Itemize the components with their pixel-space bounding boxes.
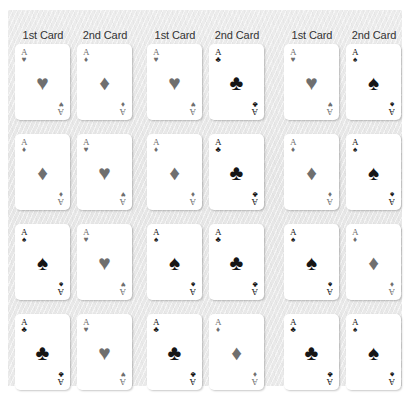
card-corner-bottom-right: A♥ bbox=[324, 100, 336, 116]
card-rank: A bbox=[117, 288, 129, 296]
card-corner-bottom-right: A♣ bbox=[249, 280, 261, 296]
playing-card: A♣♣A♣ bbox=[284, 314, 339, 390]
diamonds-icon: ♦ bbox=[324, 190, 336, 198]
diamonds-icon: ♦ bbox=[187, 190, 199, 198]
clubs-icon: ♣ bbox=[187, 370, 199, 378]
playing-card: A♣♣A♣ bbox=[147, 314, 202, 390]
card-rank: A bbox=[386, 198, 398, 206]
column-header-second-card: 2nd Card bbox=[76, 28, 134, 42]
clubs-icon: ♣ bbox=[249, 100, 261, 108]
playing-card: A♦♦A♦ bbox=[284, 134, 339, 210]
hearts-icon: ♥ bbox=[324, 100, 336, 108]
playing-card: A♥♥A♥ bbox=[77, 134, 132, 210]
card-corner-bottom-right: A♠ bbox=[55, 280, 67, 296]
spades-icon: ♠ bbox=[55, 280, 67, 288]
card-rank: A bbox=[249, 378, 261, 386]
playing-card: A♦♦A♦ bbox=[346, 224, 401, 300]
card-rank: A bbox=[324, 198, 336, 206]
card-corner-bottom-right: A♣ bbox=[324, 370, 336, 386]
hearts-icon: ♥ bbox=[55, 100, 67, 108]
column-header-first-card: 1st Card bbox=[14, 28, 72, 42]
column-headers: 1st Card 2nd Card bbox=[146, 28, 270, 42]
card-rank: A bbox=[324, 108, 336, 116]
playing-card: A♦♦A♦ bbox=[77, 44, 132, 120]
playing-card: A♣♣A♣ bbox=[209, 134, 264, 210]
card-corner-bottom-right: A♠ bbox=[386, 190, 398, 206]
clubs-icon: ♣ bbox=[249, 280, 261, 288]
card-rank: A bbox=[324, 378, 336, 386]
card-corner-bottom-right: A♥ bbox=[117, 370, 129, 386]
card-corner-bottom-right: A♠ bbox=[386, 100, 398, 116]
figure-caption bbox=[150, 0, 270, 9]
card-corner-bottom-right: A♣ bbox=[249, 100, 261, 116]
card-corner-bottom-right: A♥ bbox=[117, 280, 129, 296]
column-header-first-card: 1st Card bbox=[146, 28, 204, 42]
card-corner-bottom-right: A♥ bbox=[187, 100, 199, 116]
playing-card: A♥♥A♥ bbox=[284, 44, 339, 120]
card-rank: A bbox=[386, 288, 398, 296]
spades-icon: ♠ bbox=[386, 370, 398, 378]
playing-card: A♠♠A♠ bbox=[346, 44, 401, 120]
card-rank: A bbox=[187, 108, 199, 116]
hearts-icon: ♥ bbox=[117, 190, 129, 198]
hearts-icon: ♥ bbox=[117, 280, 129, 288]
card-rank: A bbox=[117, 108, 129, 116]
card-corner-bottom-right: A♦ bbox=[187, 190, 199, 206]
playing-card: A♠♠A♠ bbox=[346, 134, 401, 210]
card-rank: A bbox=[386, 108, 398, 116]
card-rank: A bbox=[386, 378, 398, 386]
playing-card: A♣♣A♣ bbox=[209, 44, 264, 120]
playing-card: A♠♠A♠ bbox=[147, 224, 202, 300]
playing-card: A♥♥A♥ bbox=[147, 44, 202, 120]
playing-card: A♥♥A♥ bbox=[77, 314, 132, 390]
clubs-icon: ♣ bbox=[249, 190, 261, 198]
card-rank: A bbox=[55, 108, 67, 116]
column-header-first-card: 1st Card bbox=[283, 28, 341, 42]
card-corner-bottom-right: A♦ bbox=[249, 370, 261, 386]
playing-card: A♠♠A♠ bbox=[15, 224, 70, 300]
card-corner-bottom-right: A♥ bbox=[55, 100, 67, 116]
playing-card: A♠♠A♠ bbox=[284, 224, 339, 300]
clubs-icon: ♣ bbox=[55, 370, 67, 378]
diamonds-icon: ♦ bbox=[55, 190, 67, 198]
spades-icon: ♠ bbox=[187, 280, 199, 288]
hearts-icon: ♥ bbox=[117, 370, 129, 378]
card-corner-bottom-right: A♠ bbox=[187, 280, 199, 296]
hearts-icon: ♥ bbox=[187, 100, 199, 108]
diamonds-icon: ♦ bbox=[117, 100, 129, 108]
card-rank: A bbox=[187, 198, 199, 206]
card-corner-bottom-right: A♦ bbox=[386, 280, 398, 296]
spades-icon: ♠ bbox=[324, 280, 336, 288]
card-rank: A bbox=[55, 198, 67, 206]
playing-card: A♣♣A♣ bbox=[15, 314, 70, 390]
card-corner-bottom-right: A♦ bbox=[55, 190, 67, 206]
column-headers: 1st Card 2nd Card bbox=[283, 28, 407, 42]
card-corner-bottom-right: A♥ bbox=[117, 190, 129, 206]
card-combinations-figure: 1st Card 2nd Card 1st Card 2nd Card 1st … bbox=[0, 0, 410, 401]
playing-card: A♥♥A♥ bbox=[15, 44, 70, 120]
card-rank: A bbox=[55, 288, 67, 296]
card-rank: A bbox=[187, 288, 199, 296]
column-header-second-card: 2nd Card bbox=[208, 28, 266, 42]
figure-panel: 1st Card 2nd Card 1st Card 2nd Card 1st … bbox=[8, 10, 402, 386]
column-headers: 1st Card 2nd Card bbox=[14, 28, 138, 42]
card-corner-bottom-right: A♠ bbox=[386, 370, 398, 386]
card-rank: A bbox=[249, 108, 261, 116]
playing-card: A♦♦A♦ bbox=[15, 134, 70, 210]
clubs-icon: ♣ bbox=[324, 370, 336, 378]
playing-card: A♠♠A♠ bbox=[346, 314, 401, 390]
card-corner-bottom-right: A♣ bbox=[55, 370, 67, 386]
diamonds-icon: ♦ bbox=[386, 280, 398, 288]
card-corner-bottom-right: A♣ bbox=[249, 190, 261, 206]
card-rank: A bbox=[117, 198, 129, 206]
card-corner-bottom-right: A♠ bbox=[324, 280, 336, 296]
diamonds-icon: ♦ bbox=[249, 370, 261, 378]
card-rank: A bbox=[187, 378, 199, 386]
card-rank: A bbox=[324, 288, 336, 296]
playing-card: A♦♦A♦ bbox=[209, 314, 264, 390]
spades-icon: ♠ bbox=[386, 100, 398, 108]
card-rank: A bbox=[249, 198, 261, 206]
playing-card: A♥♥A♥ bbox=[77, 224, 132, 300]
card-rank: A bbox=[249, 288, 261, 296]
spades-icon: ♠ bbox=[386, 190, 398, 198]
